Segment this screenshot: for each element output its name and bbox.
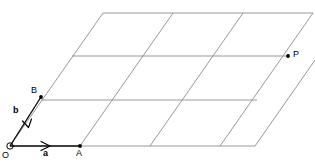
grid-oblique-line xyxy=(80,13,173,146)
grid-oblique-line xyxy=(150,13,243,146)
grid-oblique-line xyxy=(255,13,315,146)
grid-oblique-lines xyxy=(10,13,315,146)
label-vector-a: a xyxy=(43,149,48,158)
label-point-p: P xyxy=(293,50,299,59)
point-p-marker xyxy=(286,54,290,58)
lattice-canvas xyxy=(0,0,315,163)
label-point-b: B xyxy=(31,86,37,95)
label-origin: O xyxy=(2,151,9,160)
lattice-figure: O A B P a b xyxy=(0,0,315,163)
label-vector-b: b xyxy=(13,106,19,115)
grid-horizontal-lines xyxy=(41,13,313,146)
label-point-a: A xyxy=(76,149,82,158)
grid-oblique-line xyxy=(10,13,103,146)
grid-oblique-line xyxy=(220,13,313,146)
point-b-marker xyxy=(39,95,43,99)
